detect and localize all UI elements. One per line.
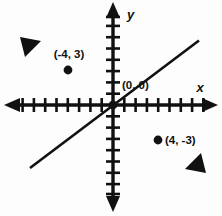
x-axis-label: x — [195, 80, 204, 95]
line-lower-right-arrowhead — [185, 153, 206, 173]
point-marker-origin — [109, 101, 118, 110]
y-axis-up-arrowhead — [106, 2, 120, 18]
point-marker-a — [64, 66, 73, 75]
line-upper-left-arrowhead — [20, 37, 41, 57]
point-marker-b — [154, 136, 163, 145]
coordinate-plane-figure: (-4, 3) (0, 0) (4, -3) y x — [0, 0, 222, 216]
x-axis-left-arrowhead — [4, 98, 20, 112]
point-b-label: (4, -3) — [165, 134, 196, 146]
y-axis-down-arrowhead — [106, 196, 120, 212]
point-a-label: (-4, 3) — [54, 48, 85, 60]
y-axis-label: y — [126, 7, 135, 22]
graph-canvas: (-4, 3) (0, 0) (4, -3) y x — [0, 0, 222, 216]
origin-label: (0, 0) — [122, 79, 149, 91]
